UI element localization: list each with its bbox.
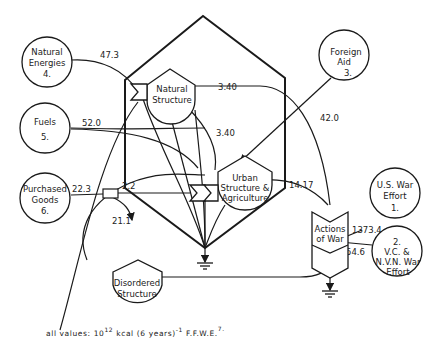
storage-natural-structure: Natural Structure <box>131 69 195 124</box>
storage-disordered-structure: Disordered Structure <box>113 260 162 303</box>
interaction-icon <box>131 84 147 100</box>
svg-text:1.: 1. <box>391 203 399 213</box>
svg-text:4.: 4. <box>43 69 51 79</box>
svg-text:Aid: Aid <box>337 57 351 67</box>
flow-value-vc-nvn-war-effort: 54.6 <box>346 247 365 257</box>
footnote: all values: 1012 kcal (6 years)-1 F.F.W.… <box>46 325 225 338</box>
flow-value-foreign-aid: 42.0 <box>320 113 339 123</box>
flow-value-goods-to-urban: 2.2 <box>122 181 136 191</box>
flow-value-fuels: 52.0 <box>82 118 101 128</box>
energy-diagram: Natural Energies 4. 47.3 Fuels 5. 52.0 P… <box>0 0 435 348</box>
svg-text:Natural: Natural <box>156 84 187 94</box>
flow-value-natural-to-war: 3.40 <box>218 82 237 92</box>
svg-text:2.: 2. <box>393 237 401 247</box>
svg-text:Energies: Energies <box>29 58 66 68</box>
svg-text:all values: 1012 kcal (6 yea: all values: 1012 kcal (6 years)-1 F.F.W.… <box>46 325 225 338</box>
svg-text:N.V.N. War: N.V.N. War <box>376 257 421 267</box>
svg-text:U.S. War: U.S. War <box>377 180 414 190</box>
flow-value-natural-energies: 47.3 <box>100 50 119 60</box>
svg-text:Structure: Structure <box>152 95 192 105</box>
storage-actions-of-war: Actions of War <box>312 212 348 278</box>
flow-value-natural-to-urban: 3.40 <box>216 128 235 138</box>
source-us-war-effort: U.S. War Effort 1. <box>370 168 420 218</box>
svg-text:Disordered: Disordered <box>114 278 160 288</box>
svg-text:Structure &: Structure & <box>221 183 270 193</box>
svg-text:Effort: Effort <box>386 267 410 277</box>
svg-text:Effort: Effort <box>383 191 407 201</box>
svg-text:5.: 5. <box>41 132 49 142</box>
flow-value-urban-to-war: 14.17 <box>289 180 313 190</box>
transaction-box <box>103 189 118 198</box>
svg-text:Goods: Goods <box>32 195 59 205</box>
svg-text:Urban: Urban <box>232 173 258 183</box>
svg-text:Natural: Natural <box>31 47 62 57</box>
heat-sink-icon <box>197 263 213 269</box>
source-vc-nvn-war-effort: 2. V.C. & N.V.N. War Effort <box>372 226 422 277</box>
svg-text:Actions: Actions <box>314 224 346 234</box>
flow-value-us-war-effort: 1373.4 <box>352 225 382 235</box>
heat-sink-icon-war <box>322 291 338 297</box>
svg-text:of War: of War <box>316 234 344 244</box>
flow-value-purchased-goods: 22.3 <box>72 184 91 194</box>
svg-text:Foreign: Foreign <box>330 47 361 57</box>
flow-value-goods-export: 21.1 <box>112 216 131 226</box>
svg-text:6.: 6. <box>41 206 49 216</box>
source-fuels: Fuels 5. <box>20 103 70 153</box>
svg-text:3.: 3. <box>344 68 352 78</box>
source-purchased-goods: Purchased Goods 6. <box>20 173 70 223</box>
svg-text:V.C. &: V.C. & <box>384 247 410 257</box>
svg-text:Structure: Structure <box>117 289 157 299</box>
svg-text:Fuels: Fuels <box>34 117 56 127</box>
svg-text:Purchased: Purchased <box>23 184 67 194</box>
source-foreign-aid: Foreign Aid 3. <box>319 30 369 80</box>
svg-text:Agriculture: Agriculture <box>222 193 269 203</box>
source-natural-energies: Natural Energies 4. <box>22 37 72 87</box>
